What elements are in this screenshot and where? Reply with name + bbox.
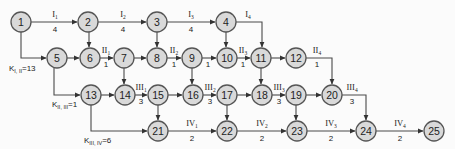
edge-duration-III4: 3 xyxy=(350,97,355,106)
edge-label-IV2: IV2 xyxy=(256,118,268,129)
k-label-II-III: KII, III=1 xyxy=(52,100,78,110)
svg-text:14: 14 xyxy=(119,89,131,101)
node-24: 24 xyxy=(356,121,376,141)
node-13: 13 xyxy=(81,85,101,105)
edge-13-21 xyxy=(91,105,147,131)
node-4: 4 xyxy=(216,12,236,32)
svg-text:15: 15 xyxy=(152,89,164,101)
svg-text:2: 2 xyxy=(85,16,91,28)
svg-text:19: 19 xyxy=(290,89,302,101)
k-labels: KI, II=13 KII, III=1 KIII, IV=6 xyxy=(9,64,112,146)
node-12: 12 xyxy=(286,48,306,68)
node-2: 2 xyxy=(78,12,98,32)
edge-5-13 xyxy=(54,68,80,95)
edge-label-II1: II1 xyxy=(102,45,111,56)
edge-label-I3: I3 xyxy=(188,9,194,20)
node-21: 21 xyxy=(148,121,168,141)
nodes: 1 2 3 4 5 6 7 8 9 10 11 12 13 14 15 16 1… xyxy=(11,12,444,141)
edge-duration-9-10: 1 xyxy=(206,60,211,69)
node-16: 16 xyxy=(183,85,203,105)
node-15: 15 xyxy=(148,85,168,105)
node-7: 7 xyxy=(114,48,134,68)
svg-text:13: 13 xyxy=(85,89,97,101)
edge-label-I4: I4 xyxy=(245,9,251,20)
edge-duration-I2: 4 xyxy=(121,25,126,34)
svg-text:20: 20 xyxy=(326,89,338,101)
edge-duration-III2: 3 xyxy=(208,97,213,106)
svg-text:7: 7 xyxy=(121,52,127,64)
node-22: 22 xyxy=(217,121,237,141)
edge-label-IV1: IV1 xyxy=(186,118,198,129)
svg-text:25: 25 xyxy=(428,125,440,137)
node-10: 10 xyxy=(217,48,237,68)
edge-label-II3: II3 xyxy=(239,45,248,56)
edge-4-11 xyxy=(236,22,262,47)
node-1: 1 xyxy=(11,12,31,32)
edge-duration-IV1: 2 xyxy=(190,134,195,143)
node-3: 3 xyxy=(147,12,167,32)
svg-text:21: 21 xyxy=(152,125,164,137)
node-23: 23 xyxy=(287,121,307,141)
edge-duration-IV3: 2 xyxy=(329,134,334,143)
svg-text:1: 1 xyxy=(18,16,24,28)
node-6: 6 xyxy=(80,48,100,68)
node-17: 17 xyxy=(217,85,237,105)
edge-label-II2: II2 xyxy=(170,45,179,56)
svg-text:3: 3 xyxy=(154,16,160,28)
k-label-III-IV: KIII, IV=6 xyxy=(84,136,112,146)
node-9: 9 xyxy=(182,48,202,68)
svg-text:18: 18 xyxy=(256,89,268,101)
edge-duration-II2: 1 xyxy=(172,60,177,69)
svg-text:10: 10 xyxy=(221,52,233,64)
svg-text:5: 5 xyxy=(54,52,60,64)
node-19: 19 xyxy=(286,85,306,105)
node-20: 20 xyxy=(322,85,342,105)
edges xyxy=(21,22,423,131)
node-8: 8 xyxy=(147,48,167,68)
edge-duration-I3: 4 xyxy=(189,25,194,34)
svg-text:16: 16 xyxy=(187,89,199,101)
edge-label-I1: I1 xyxy=(52,9,58,20)
svg-text:8: 8 xyxy=(154,52,160,64)
node-25: 25 xyxy=(424,121,444,141)
svg-text:24: 24 xyxy=(360,125,372,137)
edge-label-IV3: IV3 xyxy=(325,118,337,129)
edge-duration-II1: 1 xyxy=(104,60,109,69)
edge-1-5 xyxy=(21,32,46,58)
svg-text:4: 4 xyxy=(223,16,229,28)
svg-text:11: 11 xyxy=(256,52,267,64)
node-14: 14 xyxy=(115,85,135,105)
svg-text:22: 22 xyxy=(221,125,233,137)
svg-text:6: 6 xyxy=(87,52,93,64)
edge-duration-II3: 1 xyxy=(241,60,246,69)
diagram-svg: I1 4 I2 4 I3 4 I4 II1 1 II2 1 1 II3 1 II… xyxy=(0,0,455,149)
edge-duration-I1: 4 xyxy=(53,25,58,34)
edge-duration-II4: 1 xyxy=(315,60,320,69)
k-label-I-II: KI, II=13 xyxy=(9,64,36,74)
edge-duration-IV2: 2 xyxy=(260,134,265,143)
edge-label-III2: III2 xyxy=(204,82,216,93)
svg-text:23: 23 xyxy=(291,125,303,137)
edge-label-II4: II4 xyxy=(313,45,322,56)
edge-label-III1: III1 xyxy=(135,82,147,93)
edge-duration-III1: 3 xyxy=(139,97,144,106)
network-diagram: I1 4 I2 4 I3 4 I4 II1 1 II2 1 1 II3 1 II… xyxy=(0,0,455,149)
node-11: 11 xyxy=(251,48,271,68)
edge-duration-IV4: 2 xyxy=(398,134,403,143)
edge-label-IV4: IV4 xyxy=(394,118,406,129)
edge-label-III3: III3 xyxy=(273,82,285,93)
node-18: 18 xyxy=(252,85,272,105)
edge-label-I2: I2 xyxy=(120,9,126,20)
node-5: 5 xyxy=(47,48,67,68)
edge-duration-III3: 3 xyxy=(277,97,282,106)
svg-text:12: 12 xyxy=(290,52,302,64)
edge-label-III4: III4 xyxy=(346,82,358,93)
svg-text:17: 17 xyxy=(221,89,233,101)
svg-text:9: 9 xyxy=(189,52,195,64)
